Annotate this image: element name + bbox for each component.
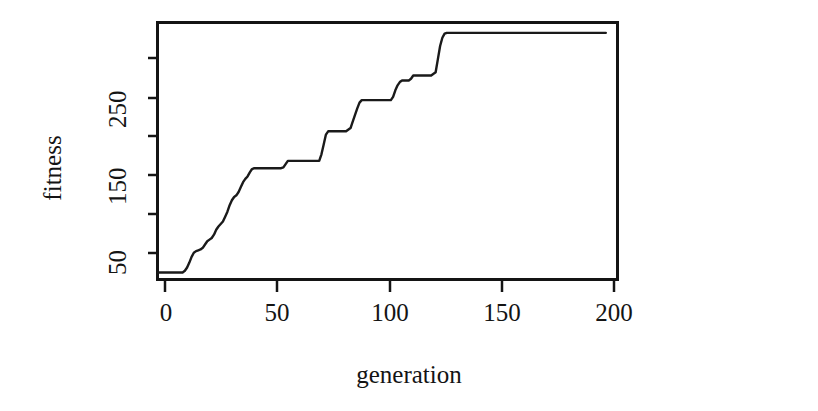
y-axis-title: fitness — [40, 108, 65, 228]
fitness-curve — [158, 33, 606, 273]
y-tick-label-50: 50 — [105, 250, 130, 275]
chart-plot-area — [0, 0, 818, 411]
x-tick-label-100: 100 — [366, 300, 414, 325]
x-tick-label-50: 50 — [261, 300, 293, 325]
y-axis-ticks — [148, 58, 157, 253]
x-axis-ticks — [165, 280, 614, 292]
plot-box-frame — [158, 23, 618, 280]
y-tick-label-150: 150 — [105, 168, 130, 206]
figure-canvas: 50 150 250 0 50 100 150 200 generation f… — [0, 0, 818, 411]
x-tick-label-200: 200 — [590, 300, 638, 325]
x-tick-label-0: 0 — [158, 300, 174, 325]
x-tick-label-150: 150 — [478, 300, 526, 325]
x-axis-title: generation — [0, 362, 818, 387]
y-tick-label-250: 250 — [105, 91, 130, 129]
